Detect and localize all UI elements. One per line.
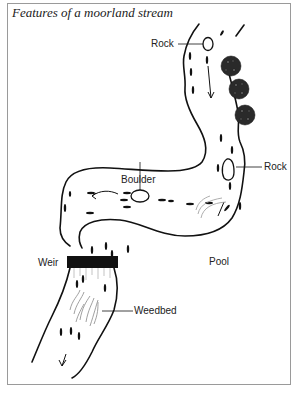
weedbed-shape [70, 290, 98, 326]
stream-lower-left-bank [32, 268, 70, 362]
weir-spill [74, 268, 110, 280]
stream-illustration [0, 0, 298, 394]
flow-arrows [59, 66, 224, 366]
rock-right-shape [222, 159, 234, 180]
label-weir: Weir [38, 258, 58, 268]
rock-top-shape [203, 38, 213, 51]
label-rock-top: Rock [151, 39, 174, 49]
label-rock-right: Rock [264, 162, 287, 172]
label-weedbed: Weedbed [134, 306, 177, 316]
weir-shape [67, 256, 118, 268]
bushes [221, 56, 255, 125]
stream-left-bank [60, 24, 206, 246]
boulder-shape [131, 190, 149, 202]
label-boulder: Boulder [121, 175, 155, 185]
label-pool: Pool [209, 257, 229, 267]
